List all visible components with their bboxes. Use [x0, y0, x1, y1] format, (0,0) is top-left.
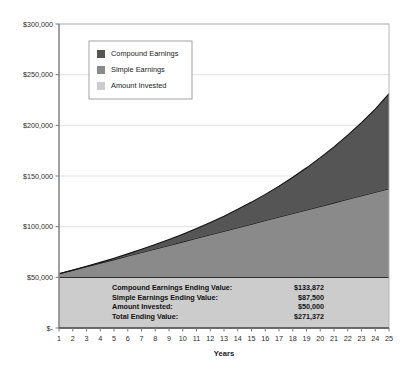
summary-row-value: $271,372: [294, 312, 324, 321]
x-tick-label: 17: [275, 334, 283, 343]
chart-canvas: $-$50,000$100,000$150,000$200,000$250,00…: [0, 0, 410, 374]
x-tick-label: 4: [98, 334, 102, 343]
x-tick-label: 10: [179, 334, 187, 343]
y-tick-label: $50,000: [27, 273, 53, 282]
x-tick-label: 24: [371, 334, 379, 343]
stacked-area-chart: $-$50,000$100,000$150,000$200,000$250,00…: [0, 0, 410, 374]
x-tick-label: 5: [112, 334, 116, 343]
x-tick-label: 19: [303, 334, 311, 343]
x-tick-label: 22: [344, 334, 352, 343]
legend-swatch: [97, 82, 105, 90]
x-tick-label: 16: [261, 334, 269, 343]
x-tick-label: 12: [206, 334, 214, 343]
y-tick-label: $100,000: [23, 222, 53, 231]
x-tick-label: 6: [126, 334, 130, 343]
legend-swatch: [97, 50, 105, 58]
x-tick-label: 20: [316, 334, 324, 343]
x-tick-label: 21: [330, 334, 338, 343]
y-tick-label: $150,000: [23, 172, 53, 181]
x-tick-label: 8: [153, 334, 157, 343]
x-tick-label: 23: [358, 334, 366, 343]
x-tick-label: 9: [167, 334, 171, 343]
summary-row-value: $87,500: [298, 293, 324, 302]
x-tick-label: 15: [248, 334, 256, 343]
x-tick-label: 13: [220, 334, 228, 343]
chart-legend: Compound EarningsSimple EarningsAmount I…: [89, 41, 192, 99]
summary-row-label: Total Ending Value:: [112, 312, 178, 321]
legend-label: Compound Earnings: [111, 49, 179, 58]
legend-label: Simple Earnings: [111, 65, 165, 74]
x-tick-label: 11: [193, 334, 200, 343]
summary-row-value: $133,872: [294, 283, 324, 292]
x-tick-label: 3: [85, 334, 89, 343]
summary-row-label: Simple Earnings Ending Value:: [112, 293, 218, 302]
x-axis: 1234567891011121314151617181920212223242…: [57, 328, 393, 343]
y-tick-label: $-: [47, 324, 54, 333]
legend-label: Amount Invested: [111, 81, 166, 90]
x-tick-label: 2: [71, 334, 75, 343]
y-tick-label: $300,000: [23, 20, 53, 29]
summary-row-label: Compound Earnings Ending Value:: [112, 283, 232, 292]
summary-row-label: Amount Invested:: [112, 302, 173, 311]
legend-swatch: [97, 66, 105, 74]
y-axis: $-$50,000$100,000$150,000$200,000$250,00…: [23, 20, 59, 333]
x-tick-label: 25: [385, 334, 393, 343]
x-tick-label: 18: [289, 334, 297, 343]
y-tick-label: $200,000: [23, 121, 53, 130]
x-tick-label: 7: [140, 334, 144, 343]
x-axis-title: Years: [214, 349, 234, 358]
summary-row-value: $50,000: [298, 302, 324, 311]
y-tick-label: $250,000: [23, 70, 53, 79]
x-tick-label: 14: [234, 334, 242, 343]
x-tick-label: 1: [57, 334, 61, 343]
